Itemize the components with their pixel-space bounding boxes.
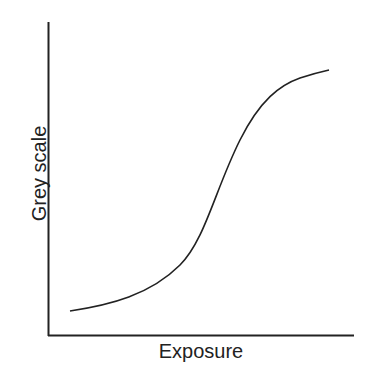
x-axis-label: Exposure xyxy=(0,340,370,363)
sigmoid-curve xyxy=(70,70,329,311)
y-axis-label: Grey scale xyxy=(28,94,51,254)
chart-plot xyxy=(0,0,370,381)
